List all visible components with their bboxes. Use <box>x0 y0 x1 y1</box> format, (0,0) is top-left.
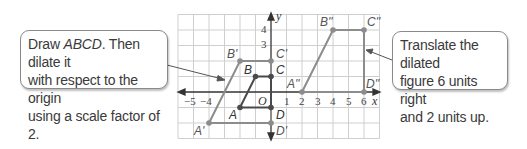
callout-left-prefix: Draw <box>28 36 64 52</box>
x-tick--4: −4 <box>200 95 212 107</box>
label-A-prime: A' <box>193 124 205 138</box>
y-axis-label: y <box>275 9 282 23</box>
label-B-double-prime: B'' <box>320 15 333 29</box>
label-C: C <box>276 63 285 77</box>
x-tick-2: 2 <box>299 95 305 107</box>
x-tick-5: 5 <box>346 95 352 107</box>
x-axis-label: x <box>371 94 378 108</box>
y-tick-3: 3 <box>261 38 267 50</box>
translate-instruction-callout: Translate the dilated figure 6 units rig… <box>392 31 508 90</box>
x-tick--5: −5 <box>184 95 196 107</box>
callout-left-line3: using a scale factor of 2. <box>28 107 160 143</box>
x-tick-3: 3 <box>315 95 321 107</box>
x-tick-1: 1 <box>284 95 290 107</box>
x-tick-6: 6 <box>361 95 367 107</box>
label-D: D <box>276 108 285 122</box>
callout-left-line1: Draw ABCD. Then dilate it <box>28 35 160 71</box>
right-pointer-arrow-icon <box>366 49 373 54</box>
label-A-double-prime: A'' <box>286 77 300 91</box>
label-B: B <box>244 63 252 77</box>
callout-left-italic: ABCD <box>64 36 102 52</box>
label-B-prime: B' <box>227 47 238 61</box>
label-A: A <box>228 108 237 122</box>
origin-label: O <box>258 94 267 108</box>
label-D-double-prime: D'' <box>366 77 380 91</box>
y-tick-4: 4 <box>261 23 267 35</box>
dilate-instruction-callout: Draw ABCD. Then dilate it with respect t… <box>20 30 168 89</box>
x-tick-4: 4 <box>330 95 336 107</box>
label-C-prime: C' <box>276 47 288 61</box>
callout-right-line1: Translate the dilated <box>400 36 500 72</box>
callout-right-line3: and 2 units up. <box>400 108 500 126</box>
callout-left-line2: with respect to the origin <box>28 71 160 107</box>
callout-right-line2: figure 6 units right <box>400 72 500 108</box>
label-D-prime: D' <box>276 124 288 138</box>
label-C-double-prime: C'' <box>367 15 381 29</box>
